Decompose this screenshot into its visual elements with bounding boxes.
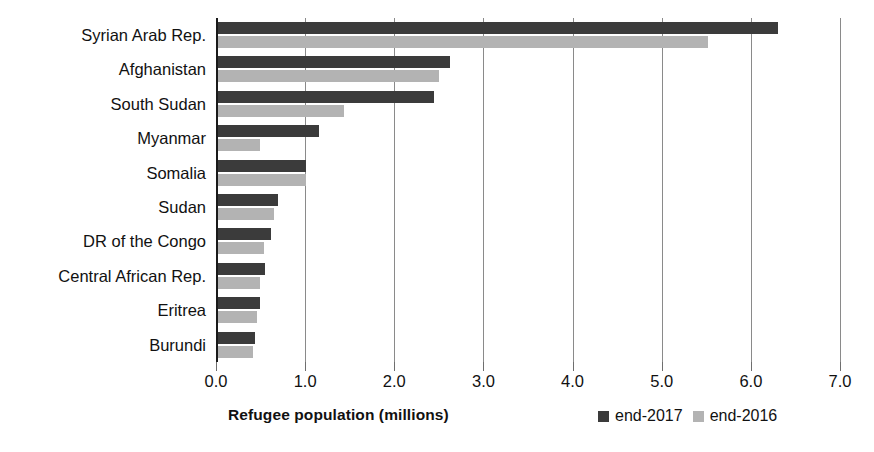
bar-dr-of-the-congo-end-2016 bbox=[216, 242, 264, 254]
bar-central-african-rep-end-2017 bbox=[216, 263, 265, 275]
bar-group-myanmar bbox=[216, 121, 840, 155]
bar-afghanistan-end-2016 bbox=[216, 70, 439, 82]
x-tick-1.0 bbox=[305, 362, 306, 371]
category-label-afghanistan: Afghanistan bbox=[0, 52, 206, 86]
legend-label-end-2016: end-2016 bbox=[710, 407, 778, 425]
x-tick-4.0 bbox=[573, 362, 574, 371]
bar-somalia-end-2016 bbox=[216, 174, 306, 186]
category-label-syrian-arab-rep: Syrian Arab Rep. bbox=[0, 18, 206, 52]
x-tick-label-0.0: 0.0 bbox=[186, 372, 246, 391]
bar-sudan-end-2017 bbox=[216, 194, 278, 206]
category-label-central-african-rep: Central African Rep. bbox=[0, 259, 206, 293]
bar-group-south-sudan bbox=[216, 87, 840, 121]
bar-group-dr-of-the-congo bbox=[216, 224, 840, 258]
x-tick-label-1.0: 1.0 bbox=[275, 372, 335, 391]
bar-group-syrian-arab-rep bbox=[216, 18, 840, 52]
bar-south-sudan-end-2016 bbox=[216, 105, 344, 117]
bar-syrian-arab-rep-end-2016 bbox=[216, 36, 708, 48]
bar-burundi-end-2016 bbox=[216, 346, 253, 358]
bar-eritrea-end-2016 bbox=[216, 311, 257, 323]
legend-item-end-2016: end-2016 bbox=[693, 407, 778, 425]
bar-group-somalia bbox=[216, 156, 840, 190]
legend-item-end-2017: end-2017 bbox=[598, 407, 683, 425]
legend-label-end-2017: end-2017 bbox=[615, 407, 683, 425]
x-tick-label-4.0: 4.0 bbox=[543, 372, 603, 391]
bar-myanmar-end-2017 bbox=[216, 125, 319, 137]
bar-group-sudan bbox=[216, 190, 840, 224]
x-tick-0.0 bbox=[216, 362, 217, 371]
x-tick-7.0 bbox=[840, 362, 841, 371]
chart-legend: end-2017 end-2016 bbox=[598, 407, 777, 425]
bar-central-african-rep-end-2016 bbox=[216, 277, 260, 289]
bar-sudan-end-2016 bbox=[216, 208, 274, 220]
x-tick-label-5.0: 5.0 bbox=[632, 372, 692, 391]
bar-burundi-end-2017 bbox=[216, 332, 255, 344]
refugee-population-bar-chart: Syrian Arab Rep. Afghanistan South Sudan… bbox=[0, 0, 874, 452]
bar-group-burundi bbox=[216, 328, 840, 362]
category-label-myanmar: Myanmar bbox=[0, 121, 206, 155]
bar-eritrea-end-2017 bbox=[216, 297, 260, 309]
x-tick-6.0 bbox=[751, 362, 752, 371]
bar-myanmar-end-2016 bbox=[216, 139, 260, 151]
x-tick-3.0 bbox=[483, 362, 484, 371]
category-label-eritrea: Eritrea bbox=[0, 293, 206, 327]
category-label-somalia: Somalia bbox=[0, 156, 206, 190]
bar-somalia-end-2017 bbox=[216, 160, 306, 172]
x-tick-label-7.0: 7.0 bbox=[810, 372, 870, 391]
bar-dr-of-the-congo-end-2017 bbox=[216, 228, 271, 240]
x-axis-title: Refugee population (millions) bbox=[228, 406, 449, 424]
bar-group-central-african-rep bbox=[216, 259, 840, 293]
x-tick-2.0 bbox=[394, 362, 395, 371]
legend-swatch-end-2017 bbox=[598, 411, 609, 422]
bar-group-afghanistan bbox=[216, 52, 840, 86]
bar-syrian-arab-rep-end-2017 bbox=[216, 22, 778, 34]
bar-afghanistan-end-2017 bbox=[216, 56, 450, 68]
x-tick-5.0 bbox=[662, 362, 663, 371]
category-label-sudan: Sudan bbox=[0, 190, 206, 224]
category-label-dr-of-the-congo: DR of the Congo bbox=[0, 224, 206, 258]
category-label-burundi: Burundi bbox=[0, 328, 206, 362]
bar-group-eritrea bbox=[216, 293, 840, 327]
bar-south-sudan-end-2017 bbox=[216, 91, 434, 103]
x-tick-label-3.0: 3.0 bbox=[453, 372, 513, 391]
x-tick-label-2.0: 2.0 bbox=[364, 372, 424, 391]
x-tick-label-6.0: 6.0 bbox=[721, 372, 781, 391]
gridline-7.0 bbox=[840, 18, 841, 362]
category-label-south-sudan: South Sudan bbox=[0, 87, 206, 121]
legend-swatch-end-2016 bbox=[693, 411, 704, 422]
value-axis-line bbox=[216, 18, 218, 362]
plot-area bbox=[216, 18, 840, 362]
category-axis-labels: Syrian Arab Rep. Afghanistan South Sudan… bbox=[0, 18, 208, 362]
